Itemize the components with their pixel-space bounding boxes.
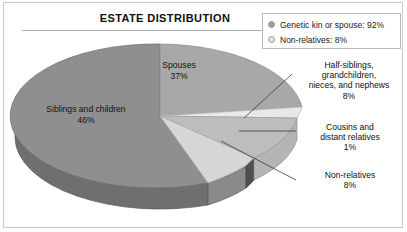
callout-cousins-line1: Cousins and bbox=[300, 122, 400, 132]
pie-label-siblings-name: Siblings and children bbox=[46, 104, 125, 114]
pie-label-spouses-name: Spouses bbox=[162, 60, 195, 70]
callout-half-siblings: Half-siblings, grandchildren, nieces, an… bbox=[296, 60, 402, 101]
callout-cousins-line2: distant relatives bbox=[300, 132, 400, 142]
callout-non-relatives-line1: Non-relatives bbox=[300, 170, 400, 180]
pie-chart: Spouses 37% Siblings and children 46% Ha… bbox=[0, 0, 407, 232]
callout-cousins: Cousins and distant relatives 1% bbox=[300, 122, 400, 153]
pie-label-siblings-pct: 46% bbox=[24, 115, 148, 126]
callout-half-siblings-line3: nieces, and nephews bbox=[296, 80, 402, 90]
callout-half-siblings-line1: Half-siblings, bbox=[296, 60, 402, 70]
callout-non-relatives-pct: 8% bbox=[300, 180, 400, 190]
callout-half-siblings-line2: grandchildren, bbox=[296, 70, 402, 80]
callout-cousins-pct: 1% bbox=[300, 142, 400, 152]
pie-label-spouses-pct: 37% bbox=[141, 71, 217, 82]
chart-page: ESTATE DISTRIBUTION Genetic kin or spous… bbox=[0, 0, 407, 232]
callout-half-siblings-pct: 8% bbox=[296, 91, 402, 101]
callout-non-relatives: Non-relatives 8% bbox=[300, 170, 400, 190]
pie-label-spouses: Spouses 37% bbox=[141, 60, 217, 81]
pie-label-siblings-and-children: Siblings and children 46% bbox=[24, 104, 148, 125]
